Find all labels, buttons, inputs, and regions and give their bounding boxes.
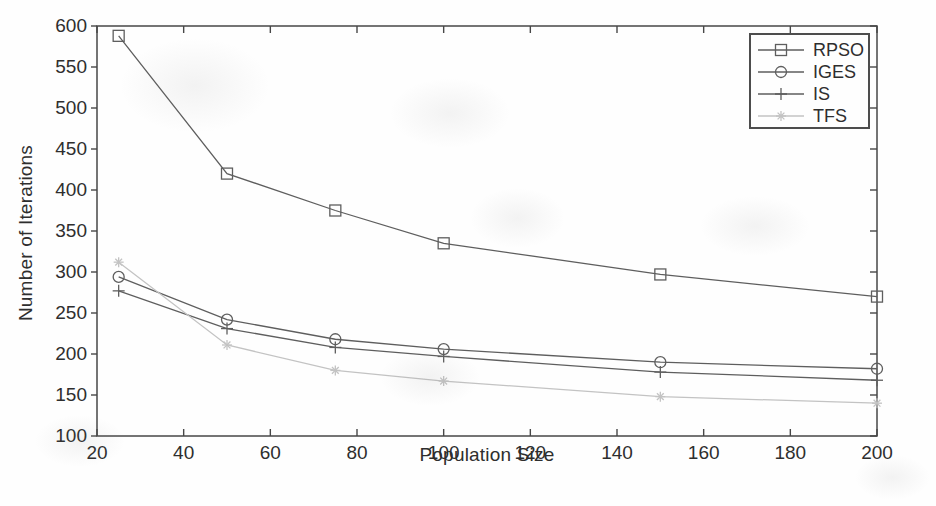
y-tick-label: 450 (55, 138, 87, 159)
is-plus-marker-icon (756, 86, 806, 102)
series-is (113, 285, 883, 386)
legend-entry-is: IS (751, 83, 868, 105)
x-tick-label: 140 (601, 442, 633, 463)
legend-label-is: IS (813, 84, 830, 105)
y-tick-label: 100 (55, 425, 87, 446)
legend-entry-iges: IGES (751, 61, 868, 83)
legend-label-rpso: RPSO (813, 40, 864, 61)
tfs-star-marker-icon (756, 108, 806, 124)
legend-label-iges: IGES (813, 62, 856, 83)
x-tick-label: 200 (861, 442, 893, 463)
rpso-square-marker-icon (756, 42, 806, 58)
legend: RPSO IGES IS TFS (749, 33, 870, 129)
series-is-line (119, 291, 877, 380)
figure-canvas: 2040608010012014016018020010015020025030… (0, 0, 936, 506)
y-tick-label: 500 (55, 97, 87, 118)
series-iges-line (119, 277, 877, 369)
y-tick-label: 250 (55, 302, 87, 323)
series-iges (113, 271, 882, 374)
legend-entry-tfs: TFS (751, 105, 868, 127)
y-axis-title: Number of Iterations (15, 145, 37, 321)
x-tick-label: 40 (173, 442, 194, 463)
x-tick-label: 20 (86, 442, 107, 463)
series-tfs-line (119, 262, 877, 403)
x-tick-label: 160 (688, 442, 720, 463)
x-tick-label: 60 (260, 442, 281, 463)
legend-label-tfs: TFS (813, 106, 847, 127)
y-tick-label: 400 (55, 179, 87, 200)
y-tick-label: 600 (55, 15, 87, 36)
x-axis-title: Population Size (419, 444, 554, 466)
y-tick-label: 350 (55, 220, 87, 241)
x-tick-label: 80 (346, 442, 367, 463)
x-tick-label: 180 (774, 442, 806, 463)
legend-entry-rpso: RPSO (751, 39, 868, 61)
y-tick-label: 150 (55, 384, 87, 405)
series-tfs (114, 257, 882, 408)
y-tick-label: 550 (55, 56, 87, 77)
y-tick-label: 300 (55, 261, 87, 282)
iges-circle-marker-icon (756, 64, 806, 80)
y-tick-label: 200 (55, 343, 87, 364)
